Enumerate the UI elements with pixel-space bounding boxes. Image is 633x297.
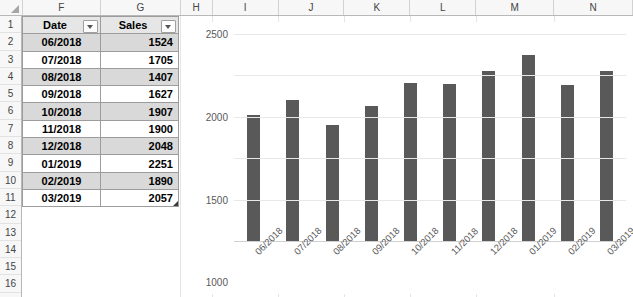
cell-sales[interactable]: 1627 — [101, 86, 179, 103]
column-header-J[interactable]: J — [279, 0, 345, 15]
table-row[interactable]: 08/20181407 — [23, 68, 179, 85]
chart-bar-slot — [234, 34, 273, 241]
chart-x-label-slot: 02/2019 — [548, 243, 587, 297]
row-header-7[interactable]: 7 — [0, 120, 21, 137]
column-header-F[interactable]: F — [23, 0, 101, 15]
column-header-I[interactable]: I — [213, 0, 279, 15]
chart-bar-slot — [548, 34, 587, 241]
column-header-date[interactable]: Date — [23, 17, 101, 34]
chart-bar[interactable] — [561, 85, 574, 241]
filter-dropdown-icon-sales[interactable] — [161, 20, 176, 33]
chart-bar[interactable] — [522, 55, 535, 241]
chart-x-label-slot: 07/2018 — [273, 243, 312, 297]
cell-date[interactable]: 10/2018 — [23, 103, 101, 120]
sales-table[interactable]: Date Sales 06/2018152407/2018170508/2018… — [22, 16, 179, 207]
table-row[interactable]: 10/20181907 — [23, 103, 179, 120]
chart-bar[interactable] — [286, 100, 299, 241]
chart-y-tick-label: 2500 — [206, 29, 228, 40]
chart-x-label-slot: 06/2018 — [234, 243, 273, 297]
row-header-9[interactable]: 9 — [0, 154, 21, 171]
chart-gridline: 500 — [234, 200, 626, 201]
row-header-3[interactable]: 3 — [0, 51, 21, 68]
select-all-corner[interactable] — [0, 0, 23, 15]
cell-sales[interactable]: 1705 — [101, 51, 179, 68]
chart-x-label-slot: 11/2018 — [430, 243, 469, 297]
table-row[interactable]: 11/20181900 — [23, 120, 179, 137]
table-row[interactable]: 07/20181705 — [23, 51, 179, 68]
cell-sales[interactable]: 1890 — [101, 172, 179, 189]
cell-sales[interactable]: 1407 — [101, 68, 179, 85]
table-row[interactable]: 02/20191890 — [23, 172, 179, 189]
cell-date[interactable]: 09/2018 — [23, 86, 101, 103]
row-header-4[interactable]: 4 — [0, 68, 21, 85]
column-header-K[interactable]: K — [344, 0, 410, 15]
cell-date[interactable]: 08/2018 — [23, 68, 101, 85]
row-header-2[interactable]: 2 — [0, 33, 21, 50]
chart-plot-area: 05001000150020002500 — [234, 34, 626, 241]
row-header-15[interactable]: 15 — [0, 258, 21, 275]
sales-bar-chart[interactable]: 05001000150020002500 06/201807/201808/20… — [186, 22, 633, 294]
cell-date[interactable]: 03/2019 — [23, 189, 101, 206]
chart-bar-slot — [391, 34, 430, 241]
header-label-sales: Sales — [119, 19, 148, 31]
row-header-17[interactable]: 17 — [0, 293, 21, 297]
chart-y-tick-label: 1500 — [206, 194, 228, 205]
column-header-L[interactable]: L — [410, 0, 476, 15]
row-header-1[interactable]: 1 — [0, 16, 21, 33]
column-header-G[interactable]: G — [101, 0, 181, 15]
cell-date[interactable]: 01/2019 — [23, 155, 101, 172]
row-header-16[interactable]: 16 — [0, 275, 21, 292]
filter-dropdown-icon-date[interactable] — [83, 20, 98, 33]
chart-x-label-slot: 10/2018 — [391, 243, 430, 297]
cell-sales[interactable]: 2057 — [101, 189, 179, 206]
chart-gridline: 1000 — [234, 158, 626, 159]
cell-sales[interactable]: 2251 — [101, 155, 179, 172]
column-header-sales[interactable]: Sales — [101, 17, 179, 34]
row-header-6[interactable]: 6 — [0, 102, 21, 119]
cell-sales[interactable]: 2048 — [101, 138, 179, 155]
chart-bars — [234, 34, 626, 241]
chart-y-tick-label: 2000 — [206, 111, 228, 122]
chart-bar-slot — [352, 34, 391, 241]
chart-bar-slot — [469, 34, 508, 241]
row-header-11[interactable]: 11 — [0, 189, 21, 206]
chart-x-label-slot: 12/2018 — [469, 243, 508, 297]
column-header-H[interactable]: H — [181, 0, 213, 15]
chart-bar[interactable] — [365, 106, 378, 241]
table-row[interactable]: 03/20192057 — [23, 189, 179, 206]
cell-date[interactable]: 11/2018 — [23, 120, 101, 137]
cell-sales[interactable]: 1524 — [101, 34, 179, 51]
column-header-N[interactable]: N — [554, 0, 633, 15]
row-header-10[interactable]: 10 — [0, 172, 21, 189]
row-header-12[interactable]: 12 — [0, 206, 21, 223]
table-row[interactable]: 06/20181524 — [23, 34, 179, 51]
table-row[interactable]: 09/20181627 — [23, 86, 179, 103]
cell-date[interactable]: 07/2018 — [23, 51, 101, 68]
chart-x-label-slot: 08/2018 — [312, 243, 351, 297]
chart-bar-slot — [508, 34, 547, 241]
spreadsheet-canvas: F G H I J K L M N 1234567891011121314151… — [0, 0, 633, 297]
chart-gridline: 2000 — [234, 75, 626, 76]
cell-date[interactable]: 02/2019 — [23, 172, 101, 189]
chart-x-label-slot: 01/2019 — [508, 243, 547, 297]
cell-date[interactable]: 12/2018 — [23, 138, 101, 155]
chart-bar[interactable] — [443, 84, 456, 241]
chart-bar[interactable] — [326, 125, 339, 241]
table-row[interactable]: 12/20182048 — [23, 138, 179, 155]
cell-sales[interactable]: 1907 — [101, 103, 179, 120]
chart-bar[interactable] — [404, 83, 417, 241]
row-header-14[interactable]: 14 — [0, 241, 21, 258]
chart-bar[interactable] — [482, 71, 495, 241]
row-header-5[interactable]: 5 — [0, 85, 21, 102]
chart-bar[interactable] — [600, 71, 613, 241]
table-row[interactable]: 01/20192251 — [23, 155, 179, 172]
cell-sales[interactable]: 1900 — [101, 120, 179, 137]
cell-date[interactable]: 06/2018 — [23, 34, 101, 51]
table-resize-handle-icon[interactable] — [173, 201, 178, 206]
chart-bar-slot — [430, 34, 469, 241]
row-header-8[interactable]: 8 — [0, 137, 21, 154]
row-header-13[interactable]: 13 — [0, 224, 21, 241]
chart-bar[interactable] — [247, 115, 260, 241]
column-header-M[interactable]: M — [476, 0, 554, 15]
chart-x-label-slot: 03/2019 — [587, 243, 626, 297]
